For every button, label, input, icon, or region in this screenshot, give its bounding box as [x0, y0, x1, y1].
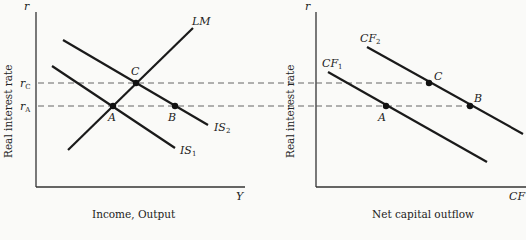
point-B-left	[172, 103, 178, 109]
right-x-axis-symbol: CF	[509, 190, 525, 203]
left-x-axis-symbol: Y	[236, 190, 245, 203]
point-label-B-right: B	[473, 92, 482, 105]
rate-label-rA: rA	[20, 100, 31, 114]
point-A-left	[110, 103, 116, 109]
point-label-C-right: C	[434, 70, 443, 83]
rate-label-rC: rC	[20, 77, 31, 91]
label-IS1-sub: 1	[192, 150, 196, 158]
right-x-axis-title: Net capital outflow	[372, 208, 474, 220]
label-CF2-main: CF	[360, 32, 376, 45]
point-B-right	[467, 103, 473, 109]
label-IS2: IS2	[213, 121, 230, 135]
right-y-axis-symbol: r	[305, 0, 311, 13]
right-y-axis-title: Real interest rate	[284, 64, 296, 158]
label-CF2-sub: 2	[376, 38, 380, 46]
left-y-axis-title: Real interest rate	[2, 64, 14, 158]
point-A-right	[383, 103, 389, 109]
rate-label-rC-sub: C	[25, 83, 30, 91]
curve-CF2	[367, 47, 523, 134]
point-label-A-right: A	[377, 111, 386, 124]
label-CF1-sub: 1	[338, 63, 342, 71]
left-panel: r Y Income, Output Real interest rate rC…	[2, 0, 316, 220]
point-C-right	[426, 80, 432, 86]
label-LM: LM	[191, 15, 211, 28]
point-label-C-left: C	[131, 65, 140, 78]
point-label-B-left: B	[167, 111, 176, 124]
curve-CF1	[328, 72, 487, 162]
rate-label-rA-sub: A	[24, 106, 31, 114]
label-CF1-main: CF	[322, 57, 338, 70]
point-C-left	[133, 80, 139, 86]
label-IS1-main: IS	[179, 144, 192, 157]
label-IS2-main: IS	[213, 121, 226, 134]
label-CF1: CF1	[322, 57, 343, 71]
right-panel: r CF Net capital outflow Real interest r…	[284, 0, 526, 220]
left-y-axis-symbol: r	[24, 0, 30, 13]
label-IS2-sub: 2	[226, 127, 230, 135]
label-CF2: CF2	[360, 32, 381, 46]
diagram: r Y Income, Output Real interest rate rC…	[0, 0, 526, 240]
left-x-axis-title: Income, Output	[92, 208, 176, 220]
label-IS1: IS1	[179, 144, 196, 158]
point-label-A-left: A	[107, 111, 116, 124]
